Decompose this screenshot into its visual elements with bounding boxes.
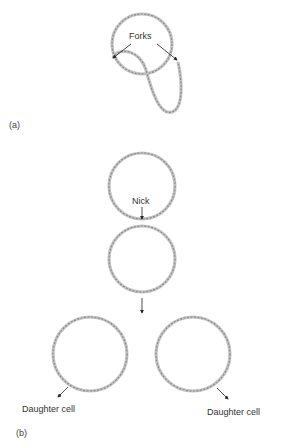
daughter-circles [53,317,230,399]
catenane [109,153,175,292]
panel-a-label: (a) [9,120,20,130]
daughter-cell-right-label: Daughter cell [207,407,260,417]
replication-diagram [0,0,285,448]
daughter-arrow-right [217,388,228,399]
theta-structure [112,14,181,112]
daughter-arrow-left [58,387,68,397]
nick-label: Nick [132,196,150,206]
daughter-cell-left-label: Daughter cell [22,404,75,414]
forks-label: Forks [129,31,152,41]
panel-b-label: (b) [16,428,27,438]
